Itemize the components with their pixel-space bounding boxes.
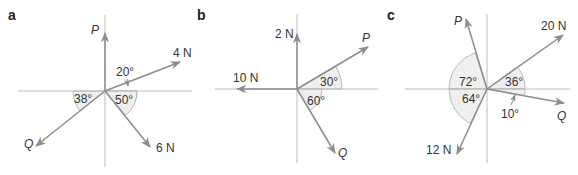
angle-label-72: 72° [459, 75, 477, 89]
panel-label-c: c [387, 7, 395, 23]
pointer-10 [511, 95, 515, 105]
panel-label-a: a [8, 7, 16, 23]
label-p: P [362, 31, 370, 45]
label-20n: 20 N [541, 19, 566, 33]
panel-c: c P 20 N Q 12 N 72° 36° 64° 10° [387, 7, 570, 163]
angle-label-38: 38° [74, 92, 92, 106]
force-vector-20n [487, 35, 563, 89]
label-2n: 2 N [275, 27, 294, 41]
label-q: Q [557, 109, 566, 123]
force-vector-q [487, 89, 564, 103]
force-diagrams: a P 4 N 6 N Q 20° 50° 38° b 2 N P [0, 0, 578, 175]
force-vector-q [36, 91, 105, 146]
angle-label-50: 50° [115, 93, 133, 107]
angle-label-20: 20° [116, 65, 134, 79]
panel-a: a P 4 N 6 N Q 20° 50° 38° [8, 7, 192, 167]
label-6n: 6 N [156, 141, 175, 155]
label-q: Q [338, 146, 347, 160]
label-p: P [91, 23, 99, 37]
angle-label-36: 36° [505, 75, 523, 89]
label-q: Q [24, 137, 33, 151]
angle-label-30: 30° [320, 75, 338, 89]
label-10n: 10 N [233, 71, 258, 85]
label-12n: 12 N [426, 143, 451, 157]
angle-label-60: 60° [307, 94, 325, 108]
angle-label-64: 64° [462, 92, 480, 106]
panel-label-b: b [197, 7, 206, 23]
label-4n: 4 N [173, 46, 192, 60]
label-p: P [454, 14, 462, 28]
angle-label-10: 10° [501, 107, 519, 121]
panel-b: b 2 N P 10 N Q 30° 60° [197, 7, 378, 163]
pointer-20 [127, 79, 128, 86]
